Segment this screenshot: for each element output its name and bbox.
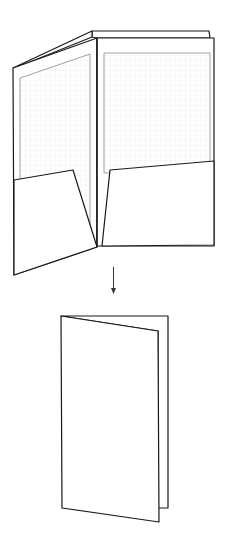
front-cover bbox=[61, 316, 159, 522]
arrow bbox=[111, 267, 116, 294]
right-insert bbox=[104, 53, 210, 173]
arrow-head-icon bbox=[111, 288, 116, 294]
closed-folder bbox=[61, 316, 168, 522]
open-folder bbox=[13, 31, 214, 275]
folder-diagram bbox=[0, 0, 230, 552]
back-sheet bbox=[92, 31, 210, 38]
right-pocket bbox=[102, 161, 214, 246]
